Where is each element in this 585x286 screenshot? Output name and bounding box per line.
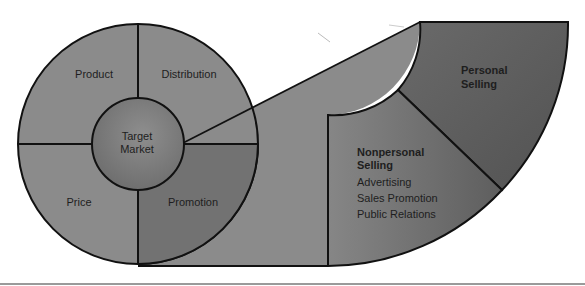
label-advertising: Advertising xyxy=(357,176,411,189)
label-personal-selling: Selling xyxy=(461,78,497,91)
label-distribution: Distribution xyxy=(161,68,216,81)
label-public-relations: Public Relations xyxy=(357,208,436,221)
label-price: Price xyxy=(66,196,91,209)
label-promotion: Promotion xyxy=(168,196,218,209)
label-product: Product xyxy=(75,68,113,81)
label-market: Market xyxy=(120,143,154,156)
marketing-mix-diagram xyxy=(0,0,585,286)
bottom-divider xyxy=(0,283,585,285)
label-nonpersonal: Nonpersonal xyxy=(357,146,424,159)
label-nonpersonal-selling: Selling xyxy=(357,159,393,172)
label-target: Target xyxy=(122,130,153,143)
label-sales-promotion: Sales Promotion xyxy=(357,192,438,205)
label-personal: Personal xyxy=(461,64,507,77)
